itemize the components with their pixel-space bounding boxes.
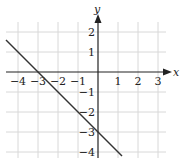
y-tick-label: 1 xyxy=(88,46,95,59)
x-tick-label: 3 xyxy=(155,75,162,88)
x-tick-label: 2 xyxy=(135,75,142,88)
coordinate-plane: x y −4−3−2−1123 21−1−2−3−4 xyxy=(0,0,180,162)
x-tick-label: −4 xyxy=(10,75,26,88)
y-tick-label: 2 xyxy=(88,26,95,39)
y-tick-labels: 21−1−2−3−4 xyxy=(79,26,95,159)
y-tick-label: −3 xyxy=(79,126,95,139)
y-axis-label: y xyxy=(93,3,101,16)
data-series xyxy=(6,40,122,156)
x-axis-label: x xyxy=(173,66,180,79)
y-tick-label: −4 xyxy=(79,146,95,159)
y-tick-label: −1 xyxy=(79,86,95,99)
x-tick-label: 1 xyxy=(115,75,122,88)
y-tick-label: −2 xyxy=(79,106,95,119)
line-series xyxy=(6,40,122,156)
x-axis-arrow-icon xyxy=(163,69,172,76)
